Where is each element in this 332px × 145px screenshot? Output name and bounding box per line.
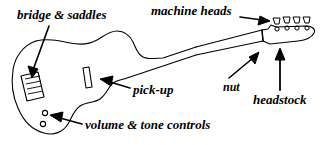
arrow-bridge-saddles — [28, 26, 49, 78]
arrow-machine-heads — [240, 16, 270, 25]
label-volume-tone-controls: volume & tone controls — [85, 118, 210, 131]
label-nut: nut — [223, 81, 240, 93]
two-control-knobs — [40, 110, 47, 126]
arrow-nut — [229, 52, 259, 78]
label-machine-heads: machine heads — [151, 4, 232, 17]
arrow-volume-tone — [50, 112, 82, 124]
guitar-neck — [196, 30, 263, 55]
label-pick-up: pick-up — [133, 83, 173, 96]
arrow-headstock — [275, 48, 285, 90]
guitar-parts-diagram: bridge & saddles machine heads pick-up n… — [0, 0, 332, 145]
label-bridge-saddles: bridge & saddles — [17, 8, 107, 21]
four-machine-heads — [273, 17, 310, 31]
label-headstock: headstock — [253, 93, 306, 106]
guitar-headstock — [262, 25, 315, 44]
single-pickup-rectangle — [83, 67, 92, 88]
